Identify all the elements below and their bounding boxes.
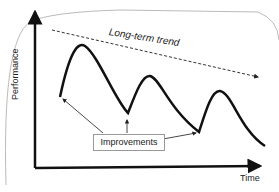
diagram-canvas	[0, 0, 279, 192]
x-axis-label: Time	[240, 173, 260, 183]
y-axis-label: Performance	[10, 48, 20, 100]
x-axis	[35, 166, 260, 168]
performance-curve	[60, 45, 265, 146]
improvement-arrow-1	[63, 99, 103, 133]
improvements-label: Improvements	[93, 134, 165, 151]
improvement-arrow-3	[163, 133, 196, 139]
